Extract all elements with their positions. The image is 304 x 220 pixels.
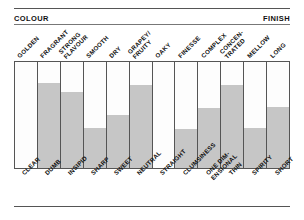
- label-line-1: FINESSE: [177, 35, 202, 60]
- finish-axis-end-label: FINISH: [263, 14, 290, 23]
- chart-column: [84, 62, 107, 168]
- chart-column: [244, 62, 267, 168]
- colour-axis-start-label: COLOUR: [14, 14, 49, 23]
- header-row: COLOUR FINISH: [14, 12, 290, 24]
- top-label-1: GOLDEN: [16, 36, 40, 60]
- chart-column: [130, 62, 153, 168]
- top-label-5: DRY: [108, 46, 122, 60]
- top-label-8: FINESSE: [177, 35, 202, 60]
- top-label-12: LONG: [269, 42, 287, 60]
- chart-column: [267, 62, 289, 168]
- bottom-divider-rule: [14, 206, 290, 207]
- chart-column: [61, 62, 84, 168]
- chart-column: [38, 62, 61, 168]
- header-divider-rule: [14, 24, 290, 25]
- wine-profile-chart: COLOUR FINISH GOLDENFRAGRANTSTRONGFLAVOU…: [0, 0, 304, 220]
- top-divider-rule: [14, 8, 290, 9]
- bar-fill: [38, 83, 60, 168]
- chart-column: [107, 62, 130, 168]
- top-label-11: MELLOW: [246, 35, 271, 60]
- chart-column: [15, 62, 38, 168]
- label-line-1: GOLDEN: [16, 35, 41, 60]
- top-label-4: SMOOTH: [85, 35, 110, 60]
- positive-attribute-labels: GOLDENFRAGRANTSTRONGFLAVOURSMOOTHDRYGRAP…: [14, 26, 290, 60]
- top-label-7: OAKY: [154, 42, 172, 60]
- label-line-1: LONG: [269, 41, 287, 59]
- negative-attribute-labels: CLEARDUMBINSIPIDSHARPSWEETNEUTRALSTRAIGH…: [14, 170, 290, 204]
- label-line-1: OAKY: [154, 41, 172, 59]
- top-label-6: GRAPEY/FRUITY: [127, 30, 157, 60]
- bar-fill: [130, 85, 152, 168]
- label-line-1: DRY: [108, 45, 123, 60]
